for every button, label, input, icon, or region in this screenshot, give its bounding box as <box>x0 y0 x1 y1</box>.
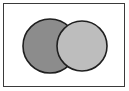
venn-diagram-figure <box>0 0 129 91</box>
venn-diagram-canvas <box>0 0 129 91</box>
venn-circle-right <box>57 21 107 71</box>
